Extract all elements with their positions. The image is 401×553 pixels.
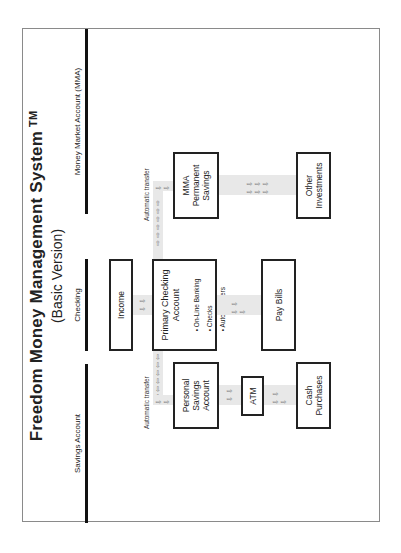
diagram-canvas: Freedom Money Management SystemTM (Basic… xyxy=(23,29,381,523)
column-rule-checking xyxy=(85,259,88,351)
feature-checks: • Checks xyxy=(203,279,216,332)
column-label-checking: Checking xyxy=(73,259,82,351)
personal-savings-line-2: Savings xyxy=(191,380,201,410)
node-other-investments: Other Investments xyxy=(296,152,331,219)
flow-down-to-savings: ⇩ ⇩ xyxy=(153,395,173,405)
flow-atm-to-cash: ⇩ ⇩ ⇩ xyxy=(264,385,296,405)
flow-income-to-checking: ⇩ ⇩ xyxy=(133,295,152,315)
mma-line-3: Savings xyxy=(201,170,211,200)
other-investments-line-2: Investments xyxy=(314,163,324,209)
flow-down-to-mma: ⇩ ⇩ xyxy=(153,181,173,191)
column-label-savings: Savings Account xyxy=(73,364,82,523)
diagram-title: Freedom Money Management SystemTM xyxy=(27,29,47,523)
node-primary-checking: Primary Checking Account • On-Line Banki… xyxy=(152,259,217,351)
cash-purchases-line-2: Purchases xyxy=(314,375,324,415)
node-mma-permanent-savings: MMA Permanent Savings xyxy=(173,152,219,219)
personal-savings-line-1: Personal xyxy=(181,379,191,413)
mma-line-2: Permanent xyxy=(191,165,201,207)
node-personal-savings: Personal Savings Account xyxy=(173,362,219,429)
node-cash-purchases: Cash Purchases xyxy=(296,362,331,429)
flow-checking-to-bills: ⇩ ⇩ ⇩ xyxy=(217,295,261,315)
column-rule-savings xyxy=(85,364,88,523)
primary-checking-title-2: Account xyxy=(171,289,182,322)
diagram-page: Freedom Money Management SystemTM (Basic… xyxy=(22,28,380,522)
other-investments-line-1: Other xyxy=(304,175,314,196)
column-rule-mma xyxy=(85,29,88,214)
feature-online-banking: • On-Line Banking xyxy=(190,279,203,332)
flow-mma-to-investments: ⇩ ⇩ ⇩ ⇩ ⇩ ⇩ xyxy=(219,175,296,195)
label-right-automatic-transfer: Automatic transfer xyxy=(143,168,150,221)
column-label-mma: Money Market Account (MMA) xyxy=(73,29,82,214)
primary-checking-title-1: Primary Checking xyxy=(160,269,171,340)
trademark: TM xyxy=(27,111,39,127)
node-income: Income xyxy=(109,259,133,351)
diagram-subtitle: (Basic Version) xyxy=(49,29,65,523)
node-atm: ATM xyxy=(241,376,264,416)
cash-purchases-line-1: Cash xyxy=(304,386,314,406)
node-pay-bills: Pay Bills xyxy=(261,259,296,351)
personal-savings-line-3: Account xyxy=(201,380,211,411)
label-left-automatic-transfer: Automatic transfer xyxy=(143,376,150,429)
flow-savings-to-atm: ⇩ ⇩ xyxy=(219,385,241,405)
mma-line-1: MMA xyxy=(181,176,191,196)
flow-checking-to-mma: ⇨ ⇨ ⇨ ⇨ ⇨ ⇨ xyxy=(153,187,163,259)
